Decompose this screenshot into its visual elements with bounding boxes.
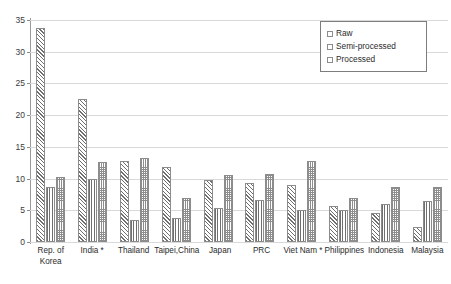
bar bbox=[182, 198, 191, 242]
y-axis-tick-mark bbox=[27, 242, 30, 243]
bar bbox=[349, 198, 358, 242]
bar bbox=[214, 208, 223, 242]
bar bbox=[172, 218, 181, 242]
bar bbox=[36, 28, 45, 242]
legend-label-raw: Raw bbox=[336, 29, 353, 37]
bar bbox=[339, 210, 348, 242]
x-axis-category-label: Taipei,China bbox=[154, 245, 199, 267]
gridline: 0 bbox=[30, 242, 448, 243]
x-axis-category-label: Japan bbox=[199, 245, 240, 267]
legend-item-semi-processed: Semi-processed bbox=[327, 40, 422, 53]
x-axis-category-labels: Rep. of KoreaIndia *ThailandTaipei,China… bbox=[30, 245, 448, 267]
x-axis-category-label: India * bbox=[71, 245, 112, 267]
bar-group bbox=[281, 20, 323, 242]
bar bbox=[423, 201, 432, 242]
x-axis-category-label: Thailand bbox=[113, 245, 154, 267]
x-axis-category-label: Viet Nam * bbox=[282, 245, 323, 267]
x-axis-category-label: Indonesia bbox=[365, 245, 406, 267]
bar bbox=[391, 187, 400, 242]
bar bbox=[265, 174, 274, 243]
bar bbox=[130, 220, 139, 242]
bar bbox=[381, 204, 390, 242]
bar bbox=[413, 227, 422, 242]
bar bbox=[255, 200, 264, 242]
legend-item-raw: Raw bbox=[327, 27, 422, 40]
bar bbox=[56, 177, 65, 242]
bar-group bbox=[114, 20, 156, 242]
bar bbox=[46, 187, 55, 242]
bar bbox=[120, 161, 129, 242]
bar bbox=[371, 213, 380, 242]
bar bbox=[224, 175, 233, 242]
x-axis-category-label: Rep. of Korea bbox=[30, 245, 71, 267]
bar bbox=[140, 158, 149, 242]
bar bbox=[204, 180, 213, 242]
bar bbox=[329, 206, 338, 242]
bar bbox=[297, 210, 306, 242]
bar-chart: 05101520253035 Rep. of KoreaIndia *Thail… bbox=[0, 0, 451, 284]
x-axis-category-label: Malaysia bbox=[407, 245, 448, 267]
bar-group bbox=[30, 20, 72, 242]
bar-group bbox=[72, 20, 114, 242]
bar bbox=[88, 179, 97, 242]
bar-group bbox=[155, 20, 197, 242]
legend-swatch-processed-icon bbox=[327, 57, 333, 63]
chart-legend: Raw Semi-processed Processed bbox=[320, 21, 427, 72]
bar bbox=[433, 187, 442, 242]
bar-group bbox=[197, 20, 239, 242]
bar bbox=[162, 167, 171, 242]
bar bbox=[98, 162, 107, 242]
bar bbox=[78, 99, 87, 242]
bar-group bbox=[239, 20, 281, 242]
x-axis-category-label: PRC bbox=[241, 245, 282, 267]
legend-swatch-raw-icon bbox=[327, 31, 333, 37]
bar bbox=[245, 183, 254, 242]
legend-item-processed: Processed bbox=[327, 53, 422, 66]
legend-label-semi-processed: Semi-processed bbox=[336, 42, 396, 50]
x-axis-category-label: Philippines bbox=[324, 245, 365, 267]
bar bbox=[307, 161, 316, 242]
bar bbox=[287, 185, 296, 242]
legend-label-processed: Processed bbox=[336, 55, 375, 63]
legend-swatch-semi-processed-icon bbox=[327, 44, 333, 50]
